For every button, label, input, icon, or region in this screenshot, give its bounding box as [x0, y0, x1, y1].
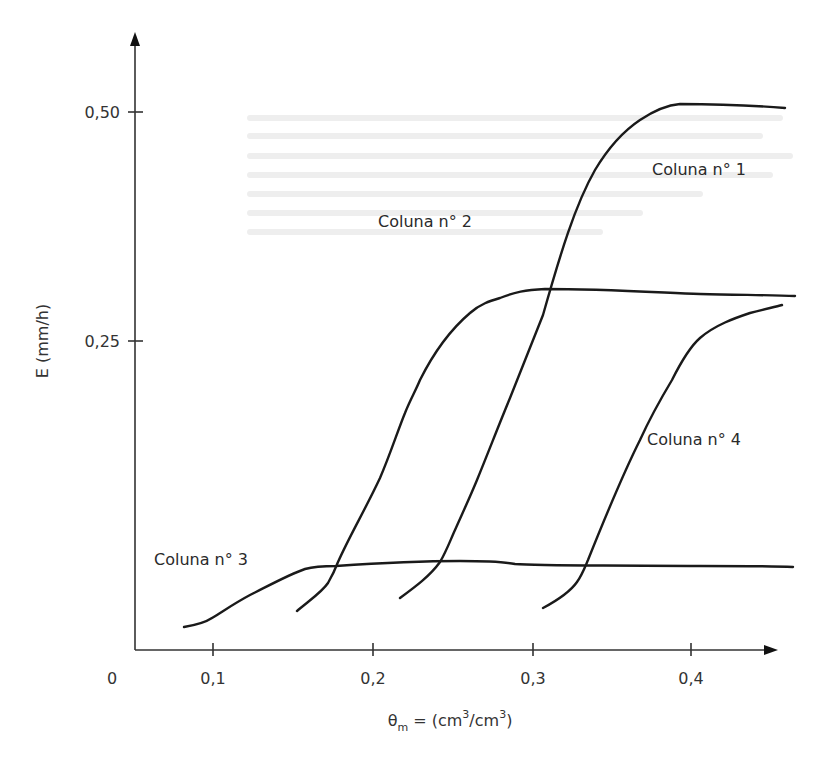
x-tick-label-03: 0,3 — [520, 669, 545, 688]
x-title-sup1: 3 — [462, 708, 469, 721]
theta-subscript: m — [397, 721, 408, 734]
x-tick-label-origin: 0 — [107, 669, 117, 688]
label-coluna-4: Coluna n° 4 — [647, 430, 741, 449]
x-title-sup2: 3 — [499, 708, 506, 721]
x-tick-label-02: 0,2 — [360, 669, 385, 688]
x-axis-title: θm = (cm3/cm3) — [388, 708, 513, 734]
chart-canvas: 0,50 0,25 0 0,1 0,2 0,3 0,4 E (mm/h) θm … — [0, 0, 825, 765]
x-title-mid: /cm — [469, 711, 499, 730]
curve-coluna-4 — [543, 305, 782, 608]
y-axis — [128, 32, 143, 650]
x-tick-label-01: 0,1 — [200, 669, 225, 688]
y-tick-label-050: 0,50 — [84, 103, 120, 122]
theta-symbol: θ — [388, 711, 398, 730]
label-coluna-1: Coluna n° 1 — [652, 160, 746, 179]
x-title-close: ) — [506, 711, 512, 730]
x-tick-label-04: 0,4 — [678, 669, 703, 688]
x-axis — [135, 643, 778, 656]
label-coluna-2: Coluna n° 2 — [378, 212, 472, 231]
x-title-eq: = (cm — [408, 711, 462, 730]
y-tick-label-025: 0,25 — [84, 332, 120, 351]
y-axis-title: E (mm/h) — [33, 304, 52, 378]
label-coluna-3: Coluna n° 3 — [154, 550, 248, 569]
x-axis-arrow-icon — [764, 645, 778, 655]
curve-coluna-3 — [184, 561, 793, 627]
y-axis-arrow-icon — [130, 32, 140, 46]
